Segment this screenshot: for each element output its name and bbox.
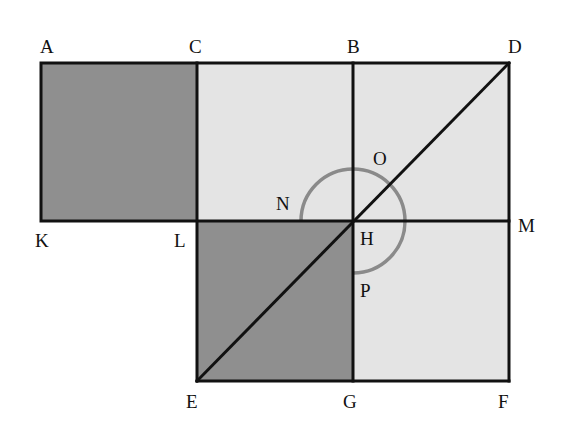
label-B: B [347, 36, 360, 57]
label-H: H [360, 228, 374, 249]
label-D: D [508, 36, 522, 57]
label-E: E [186, 391, 198, 412]
square-ACLK [41, 63, 197, 221]
label-C: C [189, 36, 202, 57]
label-G: G [343, 391, 357, 412]
label-O: O [373, 148, 387, 169]
label-K: K [35, 230, 49, 251]
label-A: A [40, 36, 54, 57]
label-L: L [174, 230, 186, 251]
label-N: N [276, 193, 290, 214]
label-M: M [518, 215, 535, 236]
geometry-diagram: A C B D K L H M N O P E G F [0, 0, 566, 446]
label-F: F [498, 391, 509, 412]
label-P: P [360, 280, 371, 301]
square-HMFG [353, 221, 509, 381]
